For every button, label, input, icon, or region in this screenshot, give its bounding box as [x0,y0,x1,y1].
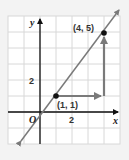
coordinate-plane-figure: (1, 1) (4, 5) 2 2 O x y [0,0,129,160]
point-label-4-5: (4, 5) [73,23,94,33]
point-4-5 [101,30,107,36]
x-axis-label: x [112,115,118,126]
y-axis-label: y [29,17,35,28]
y-tick-label: 2 [29,76,34,86]
origin-label: O [29,114,36,125]
point-label-1-1: (1, 1) [57,100,78,110]
point-1-1 [53,93,59,99]
x-tick-label: 2 [69,115,74,125]
